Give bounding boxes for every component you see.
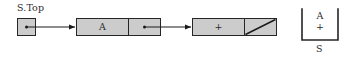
diagram-canvas: S.Top A + A + S <box>0 0 353 59</box>
node-2-data-value: + <box>193 22 244 32</box>
node-2-data-cell: + <box>192 18 244 36</box>
node-2-link-cell <box>244 18 277 36</box>
node-1-link-cell <box>128 18 161 36</box>
node-1-data-cell: A <box>76 18 128 36</box>
pointer-label: S.Top <box>17 3 44 13</box>
stack-item-0: A <box>300 10 340 21</box>
stack-item-1: + <box>300 21 340 32</box>
pointer-origin-box <box>17 18 36 36</box>
stack-items: A + <box>300 10 340 32</box>
stack-container: A + <box>300 8 340 42</box>
stack-label: S <box>316 44 323 54</box>
node-1-data-value: A <box>77 22 128 32</box>
